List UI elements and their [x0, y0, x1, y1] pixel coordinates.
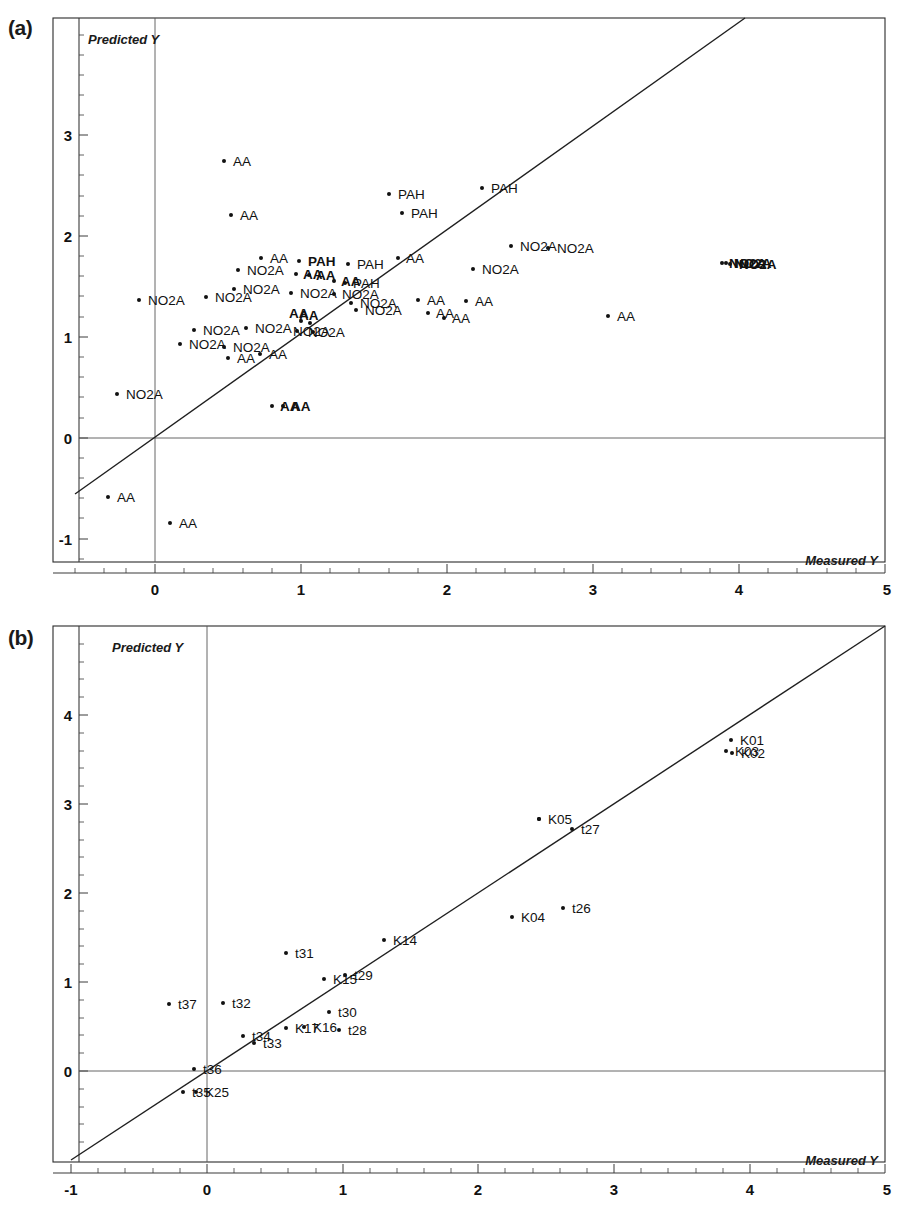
- panel-a-xtick-4: 4: [735, 581, 744, 598]
- panel-a-ytick-3: 3: [64, 127, 72, 144]
- panel-b-frame: [53, 626, 885, 1162]
- data-point: NO2A: [178, 337, 226, 352]
- panel-a-xtick-3: 3: [589, 581, 597, 598]
- svg-text:t28: t28: [348, 1023, 367, 1038]
- data-point: AA: [226, 351, 255, 366]
- panel-b-xtick-3: 3: [610, 1181, 618, 1198]
- svg-text:NO2A: NO2A: [148, 293, 185, 308]
- panel-b-xtick-neg1: -1: [64, 1181, 77, 1198]
- panel-a-xtick-1: 1: [297, 581, 305, 598]
- data-point: PAH: [387, 187, 425, 202]
- data-point: t31: [284, 946, 314, 961]
- svg-text:t30: t30: [338, 1005, 357, 1020]
- svg-text:NO2A: NO2A: [557, 241, 594, 256]
- svg-text:NO2A: NO2A: [189, 337, 226, 352]
- figure-page: (a): [0, 0, 906, 1230]
- panel-b-ytick-3: 3: [64, 796, 72, 813]
- panel-b-ytick-4: 4: [64, 707, 73, 724]
- panel-b-y-axis-title: Predicted Y: [112, 640, 185, 655]
- panel-b-ytick-0: 0: [64, 1063, 72, 1080]
- panel-a-xtick-2: 2: [443, 581, 451, 598]
- panel-a-points: AA AA AA PAH PAH AA PAH PAH PAH NO2A NO2…: [106, 154, 777, 531]
- svg-text:t37: t37: [178, 997, 197, 1012]
- svg-text:AA: AA: [237, 351, 255, 366]
- data-point: K15: [322, 972, 357, 987]
- panel-a-ytick-0: 0: [64, 430, 72, 447]
- data-point: NO2A: [192, 323, 240, 338]
- svg-text:NO2A: NO2A: [482, 262, 519, 277]
- svg-text:NO2A: NO2A: [308, 325, 345, 340]
- panel-a-frame: [53, 18, 885, 562]
- data-point: AA: [426, 306, 454, 321]
- svg-text:t26: t26: [572, 901, 591, 916]
- svg-text:AA: AA: [117, 490, 135, 505]
- data-point: PAH: [480, 181, 518, 196]
- data-point: t30: [327, 1005, 357, 1020]
- panel-b-points: K01 K03 K02 K05 t27 K04 t26 K14 t31 K15 …: [167, 733, 765, 1100]
- data-point: t32: [221, 996, 251, 1011]
- svg-text:NO2A: NO2A: [255, 321, 292, 336]
- data-point: AA: [222, 154, 251, 169]
- data-point: AA: [168, 516, 197, 531]
- svg-text:t33: t33: [263, 1036, 282, 1051]
- panel-b-y-ticks: [79, 715, 88, 1071]
- svg-text:t29: t29: [354, 968, 373, 983]
- panel-a-xtick-0: 0: [151, 581, 159, 598]
- panel-a-ytick-1: 1: [64, 329, 72, 346]
- svg-text:PAH: PAH: [357, 257, 384, 272]
- panel-a: (a): [0, 0, 906, 612]
- panel-a-ytick-2: 2: [64, 228, 72, 245]
- data-point: AA: [299, 308, 319, 325]
- svg-text:K25: K25: [205, 1085, 229, 1100]
- svg-text:t31: t31: [295, 946, 314, 961]
- svg-text:AA: AA: [240, 208, 258, 223]
- svg-text:AA: AA: [233, 154, 251, 169]
- data-point: K04: [510, 910, 546, 925]
- panel-a-x-ticks: [155, 564, 885, 573]
- panel-b-xtick-5: 5: [883, 1181, 891, 1198]
- panel-b-xtick-4: 4: [746, 1181, 755, 1198]
- panel-a-plot: 3 2 1 0 -1: [0, 0, 906, 612]
- svg-text:NO2A: NO2A: [520, 239, 557, 254]
- panel-b-xtick-0: 0: [203, 1181, 211, 1198]
- svg-text:NO2A: NO2A: [247, 263, 284, 278]
- data-point: AA: [464, 294, 493, 309]
- svg-text:NO2A: NO2A: [215, 290, 252, 305]
- data-point: t26: [561, 901, 591, 916]
- svg-text:AA: AA: [452, 311, 470, 326]
- data-point: NO2A: [244, 321, 292, 336]
- svg-text:NO2A: NO2A: [203, 323, 240, 338]
- panel-b-x-ticks: [71, 1164, 885, 1173]
- data-point: NO2A: [204, 290, 252, 305]
- svg-text:NO2A: NO2A: [300, 286, 337, 301]
- panel-b-identity-line: [71, 626, 885, 1160]
- data-point: t28: [337, 1023, 367, 1038]
- data-point: NO2A: [236, 263, 284, 278]
- panel-a-ytick-neg1: -1: [59, 531, 72, 548]
- panel-b-xtick-2: 2: [474, 1181, 482, 1198]
- data-point: t36: [192, 1062, 222, 1077]
- svg-text:NO2A: NO2A: [739, 257, 777, 272]
- data-point: t37: [167, 997, 197, 1012]
- panel-b: (b): [0, 612, 906, 1230]
- svg-text:t27: t27: [581, 822, 600, 837]
- panel-a-xtick-5: 5: [883, 581, 891, 598]
- panel-a-y-axis-title: Predicted Y: [88, 32, 161, 47]
- data-point: AA: [229, 208, 258, 223]
- data-point: NO2A: [115, 387, 163, 402]
- panel-b-xtick-1: 1: [339, 1181, 347, 1198]
- data-point: PAH: [346, 257, 384, 272]
- svg-text:PAH: PAH: [491, 181, 518, 196]
- data-point: AA: [606, 309, 635, 324]
- svg-text:K04: K04: [521, 910, 546, 925]
- svg-text:NO2A: NO2A: [126, 387, 163, 402]
- svg-text:AA: AA: [179, 516, 197, 531]
- panel-a-x-axis-title: Measured Y: [805, 553, 879, 568]
- svg-text:AA: AA: [617, 309, 635, 324]
- svg-text:NO2A: NO2A: [365, 303, 402, 318]
- data-point: PAH: [400, 206, 438, 221]
- data-point: NO2A: [509, 239, 557, 254]
- data-point: NO2A: [471, 262, 519, 277]
- panel-b-ytick-2: 2: [64, 885, 72, 902]
- svg-text:K02: K02: [741, 746, 765, 761]
